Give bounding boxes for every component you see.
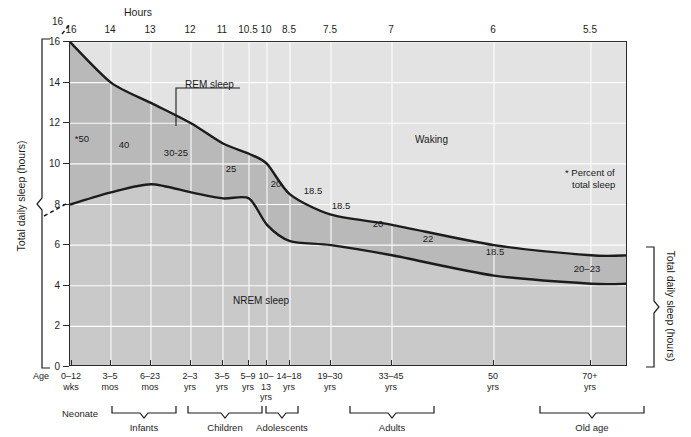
bottom-tickmark-2 — [150, 360, 151, 366]
tick-text-line: yrs — [258, 392, 273, 403]
pct-label-20-b: 20 — [373, 218, 384, 229]
tick-text-line: 0–12 — [61, 371, 81, 382]
tick-text-line: 13 — [258, 382, 273, 393]
bottom-axis-tick-7: 14–18yrs — [276, 371, 301, 392]
left-axis-bracket — [36, 38, 52, 370]
bottom-axis-title: Age — [33, 371, 49, 381]
tick-text-line: wks — [61, 382, 81, 393]
pct-label-20-a: 20 — [271, 178, 282, 189]
pct-label-22: 22 — [423, 233, 434, 244]
top-axis-tick-2: 13 — [144, 24, 155, 35]
bottom-axis-tick-6: 10–13yrs — [258, 371, 273, 403]
bottom-axis-tick-9: 33–45yrs — [378, 371, 403, 392]
bottom-axis-tick-1: 3–5mos — [101, 371, 118, 392]
bottom-axis-tick-0: 0–12wks — [61, 371, 81, 392]
bottom-tickmark-6 — [266, 360, 267, 366]
bottom-tickmark-10 — [493, 360, 494, 366]
pct-label-18-5-b: 18.5 — [332, 200, 351, 211]
bottom-axis-tick-10: 50yrs — [487, 371, 499, 392]
life-stage-infants: Infants — [130, 422, 159, 433]
sleep-lifespan-chart: Hours 161413121110.5108.57.5765.5 161412… — [0, 0, 691, 437]
tick-text-line: yrs — [182, 382, 197, 393]
footnote-line-2: total sleep — [565, 179, 615, 191]
nrem-sleep-label: NREM sleep — [233, 295, 289, 306]
bottom-tickmark-9 — [391, 360, 392, 366]
top-axis-tick-5: 10.5 — [238, 24, 257, 35]
tick-text-line: yrs — [240, 382, 255, 393]
footnote: * Percent of total sleep — [565, 167, 615, 190]
pct-label-18-5-a: 18.5 — [304, 185, 323, 196]
tick-text-line: 5–9 — [240, 371, 255, 382]
tick-text-line: mos — [140, 382, 160, 393]
top-axis-tick-4: 11 — [217, 24, 227, 35]
bottom-tickmark-1 — [110, 360, 111, 366]
bottom-tickmark-5 — [248, 360, 249, 366]
tick-text-line: yrs — [317, 382, 342, 393]
pct-label-50: *50 — [75, 133, 89, 144]
bottom-axis-tick-3: 2–3yrs — [182, 371, 197, 392]
y-axis-tick-6: 6 — [54, 239, 60, 250]
life-stage-oldage: Old age — [575, 422, 608, 433]
bottom-tickmark-3 — [190, 360, 191, 366]
tick-text-line: yrs — [582, 382, 597, 393]
top-axis-tick-11: 5.5 — [583, 24, 597, 35]
top-axis-tick-10: 6 — [490, 24, 496, 35]
life-stage-adults: Adults — [379, 422, 405, 433]
bottom-tickmark-4 — [222, 360, 223, 366]
tick-text-line: 6–23 — [140, 371, 160, 382]
y-axis-tick-4: 4 — [54, 279, 60, 290]
bottom-tickmark-8 — [330, 360, 331, 366]
tick-text-line: 50 — [487, 371, 499, 382]
right-axis-bracket — [644, 246, 660, 368]
y-axis-tick-2: 2 — [54, 320, 60, 331]
bottom-axis-tick-11: 70+yrs — [582, 371, 597, 392]
tick-text-line: 19–30 — [317, 371, 342, 382]
life-stage-brackets — [0, 404, 691, 420]
tick-text-line: yrs — [487, 382, 499, 393]
bottom-axis-tick-2: 6–23mos — [140, 371, 160, 392]
tick-text-line: 33–45 — [378, 371, 403, 382]
top-axis-tick-7: 8.5 — [282, 24, 296, 35]
plot-area: REM sleep Waking NREM sleep * Percent of… — [69, 41, 627, 366]
life-stage-neonate: Neonate — [62, 408, 98, 419]
bottom-tickmark-0 — [71, 360, 72, 366]
tick-text-line: mos — [101, 382, 118, 393]
tick-text-line: 14–18 — [276, 371, 301, 382]
tick-text-line: 70+ — [582, 371, 597, 382]
axis-break-label-top: 16 — [52, 16, 63, 27]
pct-label-25: 25 — [226, 163, 237, 174]
life-stage-children: Children — [207, 422, 242, 433]
bottom-axis-tick-8: 19–30yrs — [317, 371, 342, 392]
tick-text-line: 10– — [258, 371, 273, 382]
bottom-axis-tick-4: 3–5yrs — [214, 371, 229, 392]
pct-label-18-5-c: 18.5 — [486, 246, 505, 257]
rem-sleep-label: REM sleep — [185, 79, 234, 90]
tick-text-line: yrs — [378, 382, 403, 393]
tick-text-line: yrs — [214, 382, 229, 393]
top-axis-tick-3: 12 — [184, 24, 195, 35]
life-stage-adolescents: Adolescents — [256, 422, 308, 433]
left-axis-title: Total daily sleep (hours) — [15, 116, 27, 276]
waking-label: Waking — [415, 134, 448, 145]
top-axis-tick-6: 10 — [260, 24, 271, 35]
y-axis-tick-0: 0 — [54, 361, 60, 372]
top-axis-tick-1: 14 — [104, 24, 115, 35]
tick-text-line: yrs — [276, 382, 301, 393]
right-axis-title: Total daily sleep (hours) — [665, 221, 677, 391]
bottom-tickmark-11 — [590, 360, 591, 366]
top-axis-tick-9: 7 — [388, 24, 394, 35]
pct-label-40: 40 — [119, 139, 130, 150]
footnote-line-1: * Percent of — [565, 167, 615, 179]
tick-text-line: 2–3 — [182, 371, 197, 382]
top-axis-title: Hours — [124, 6, 152, 18]
tick-text-line: 3–5 — [101, 371, 118, 382]
tick-text-line: 3–5 — [214, 371, 229, 382]
bottom-axis-tick-5: 5–9yrs — [240, 371, 255, 392]
top-axis-tick-8: 7.5 — [323, 24, 337, 35]
pct-label-20-23: 20–23 — [574, 263, 600, 274]
bottom-tickmark-7 — [289, 360, 290, 366]
y-tickmark-0 — [63, 366, 69, 367]
pct-label-30-25: 30-25 — [164, 147, 188, 158]
